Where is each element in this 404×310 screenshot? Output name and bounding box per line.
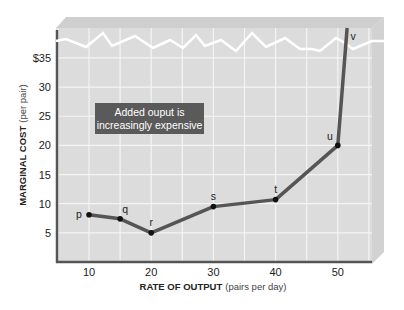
- y-tick-label: 10: [39, 198, 51, 210]
- point-s-marker: [211, 204, 217, 210]
- point-s-label: s: [211, 190, 216, 202]
- point-v-label: v: [351, 30, 357, 42]
- x-tick-label: 10: [83, 266, 95, 278]
- y-tick-label: 30: [39, 81, 51, 93]
- point-u-marker: [335, 143, 341, 149]
- y-tick-labels: 51015202530$35: [33, 52, 51, 239]
- x-tick-label: 20: [145, 266, 157, 278]
- x-tick-labels: 1020304050: [83, 266, 344, 278]
- point-p-label: p: [76, 208, 82, 220]
- point-p-marker: [86, 212, 92, 218]
- point-r-label: r: [149, 216, 153, 228]
- y-tick-label: 25: [39, 110, 51, 122]
- point-t-label: t: [274, 183, 277, 195]
- x-tick-label: 50: [332, 266, 344, 278]
- plot-right-face: [372, 17, 384, 264]
- y-tick-label: 20: [39, 139, 51, 151]
- point-r-marker: [148, 230, 154, 236]
- x-tick-label: 30: [207, 266, 219, 278]
- point-u-label: u: [327, 130, 333, 142]
- point-q-marker: [117, 216, 123, 222]
- y-tick-label: 5: [45, 227, 51, 239]
- x-tick-label: 40: [269, 266, 281, 278]
- y-axis-title: MARGINAL COST(per pair): [17, 84, 28, 206]
- annotation-line-2: increasingly expensive: [97, 119, 203, 131]
- marginal-cost-chart: Added ouput is increasingly expensive 51…: [0, 0, 404, 310]
- point-t-marker: [273, 197, 279, 203]
- plot-top-face: [56, 17, 384, 28]
- x-axis-title: RATE OF OUTPUT(pairs per day): [140, 281, 287, 292]
- point-q-label: q: [122, 203, 128, 215]
- annotation-line-1: Added ouput is: [114, 106, 184, 118]
- y-tick-label: 15: [39, 169, 51, 181]
- y-tick-label: $35: [33, 52, 51, 64]
